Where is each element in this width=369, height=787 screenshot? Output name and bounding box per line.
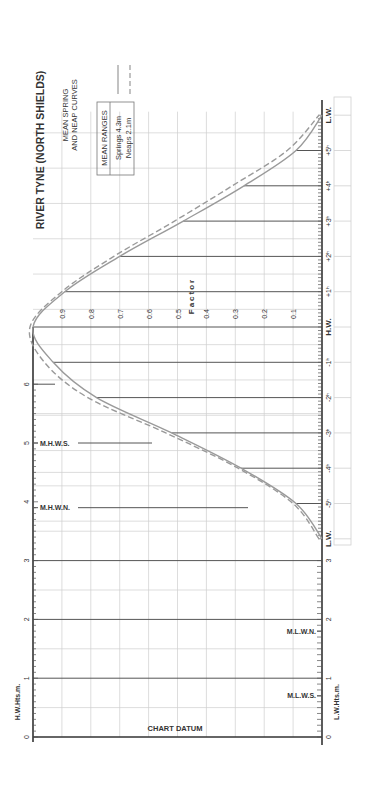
table-strip [334,97,351,545]
lw-height-tick: 2 [325,617,332,621]
lw-height-tick: 3 [325,559,332,563]
subtitle-line-1: MEAN SPRING [61,89,70,142]
time-tick: H.W. [324,318,333,335]
chart-title: RIVER TYNE (NORTH SHIELDS) [34,71,46,230]
time-tick: +4ʰ [325,180,332,191]
lw-height-tick: 0 [325,735,332,739]
factor-tick: 0.5 [175,309,182,319]
hw-height-tick: 1 [23,676,30,680]
ref-level-label: M.L.W.N. [287,628,316,635]
factor-axis-label: Factor [187,278,196,314]
hw-height-tick: 5 [23,441,30,445]
time-tick: +3ʰ [325,215,332,226]
datum-label: CHART DATUM [148,724,203,733]
labels: RIVER TYNE (NORTH SHIELDS)MEAN SPRINGAND… [14,71,340,739]
subtitle-line-2: AND NEAP CURVES [70,79,79,150]
factor-tick: 0.2 [261,309,268,319]
hw-height-tick: 4 [23,500,30,504]
lw-height-tick: 1 [325,676,332,680]
hw-height-tick: 6 [23,382,30,386]
hw-height-tick: 3 [23,559,30,563]
legend-neaps-label: Neaps 2.1m [124,118,133,158]
grid-light [33,112,322,737]
factor-tick: 0.8 [88,309,95,319]
hw-height-axis-label: H.W.Hts.m. [14,684,21,721]
ref-level-label: M.L.W.S. [287,692,316,699]
time-tick: -4ʰ [325,463,332,472]
time-tick: L.W. [324,531,333,547]
factor-tick: 0.3 [232,309,239,319]
ref-level-label: M.H.W.N. [40,504,70,511]
time-tick: -1ʰ [325,358,332,367]
time-tick: -5ʰ [325,499,332,508]
factor-tick: 0.1 [290,309,297,319]
factor-tick: 0.7 [117,309,124,319]
factor-tick: 0.4 [203,309,210,319]
ref-level-label: M.H.W.S. [40,440,70,447]
hw-height-tick: 0 [23,735,30,739]
legend-springs-label: Springs 4.3m [114,116,123,160]
time-tick: -3ʰ [325,428,332,437]
time-tick: -2ʰ [325,393,332,402]
factor-tick: 0.6 [146,309,153,319]
tidal-curve-chart: RIVER TYNE (NORTH SHIELDS)MEAN SPRINGAND… [0,0,369,787]
time-tick: +2ʰ [325,251,332,262]
legend-header: MEAN RANGES [100,110,109,165]
time-tick: +1ʰ [325,286,332,297]
factor-tick: 0.9 [59,309,66,319]
lw-height-axis-label: L.W.Hts.m. [333,684,340,720]
time-tick: +5ʰ [325,145,332,156]
hw-height-tick: 2 [23,617,30,621]
time-tick: L.W. [324,107,333,123]
